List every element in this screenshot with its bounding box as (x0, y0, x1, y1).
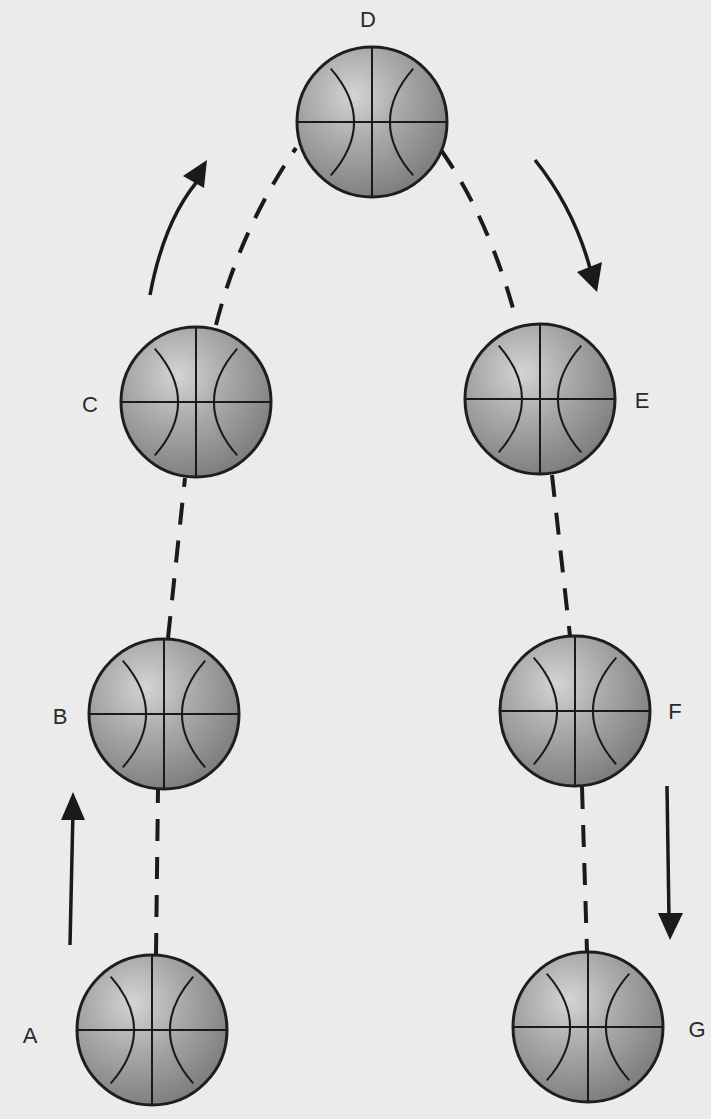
ball-a (77, 955, 227, 1105)
ball-g (513, 952, 663, 1102)
ball-f (500, 636, 650, 786)
motion-arrows (61, 160, 683, 945)
arrow-up-left-curved-icon (150, 160, 207, 295)
ball-c (121, 327, 271, 477)
label-g: G (688, 1019, 705, 1041)
arrow-down-right-curved-icon (535, 160, 602, 292)
label-d: D (360, 9, 376, 31)
dashed-path-a-b (156, 790, 158, 955)
label-c: C (82, 394, 98, 416)
label-e: E (635, 390, 650, 412)
ball-d (297, 47, 447, 197)
dashed-path-f-g (582, 787, 587, 952)
balls (77, 47, 663, 1105)
dashed-path-e-f (552, 475, 570, 636)
dashed-path-c-d (216, 148, 296, 325)
dashed-path-d-e (441, 150, 517, 323)
dashed-trajectory (156, 148, 587, 955)
diagram-canvas (0, 0, 711, 1119)
label-b: B (53, 706, 68, 728)
arrow-down-right-straight-icon (658, 786, 683, 940)
label-a: A (23, 1025, 38, 1047)
ball-e (465, 324, 615, 474)
arrow-up-left-straight-icon (61, 792, 85, 945)
dashed-path-b-c (168, 478, 185, 638)
label-f: F (668, 701, 681, 723)
ball-b (89, 639, 239, 789)
trajectory-diagram: ABCDEFG (0, 0, 711, 1119)
